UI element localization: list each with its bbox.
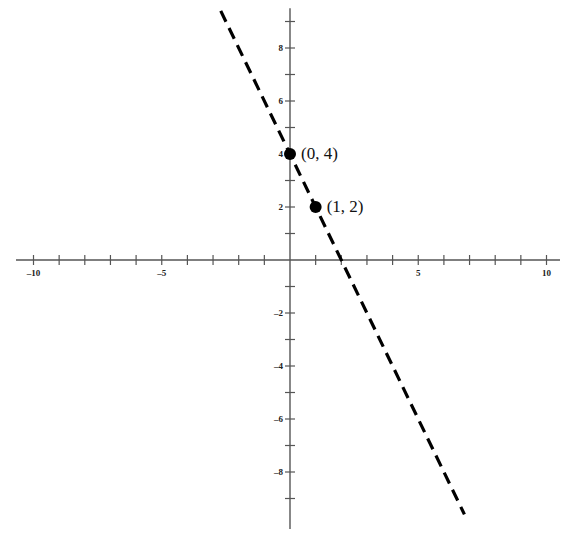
y-tick-label: –4 [273,361,284,371]
y-tick-label: –8 [273,467,284,477]
x-tick-label: –10 [26,268,41,278]
coordinate-plane: –10–55108642–2–4–6–8 (0, 4)(1, 2) [0,0,571,545]
axes [16,8,560,529]
data-point [310,201,322,213]
x-tick-label: 5 [416,268,421,278]
x-tick-label: –5 [156,268,167,278]
y-tick-label: 4 [279,149,284,159]
point-label: (0, 4) [301,144,338,163]
x-tick-label: 10 [542,268,552,278]
line-series [221,11,465,515]
y-tick-label: 6 [279,96,284,106]
y-tick-label: –2 [273,308,284,318]
y-tick-label: –6 [273,414,284,424]
y-tick-label: 2 [279,202,284,212]
data-point [284,148,296,160]
labeled-points: (0, 4)(1, 2) [284,144,363,216]
y-tick-label: 8 [279,43,284,53]
dashed-line [221,11,465,515]
point-label: (1, 2) [327,197,364,216]
